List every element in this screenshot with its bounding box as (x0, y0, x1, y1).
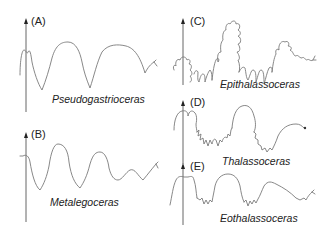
panel-label-a: (A) (31, 15, 46, 27)
panel-e: (E) Eothalassoceras (170, 160, 315, 225)
panel-label-d: (D) (190, 96, 205, 108)
suture-line-c (173, 21, 316, 84)
arrow-up-icon (181, 18, 185, 24)
panel-label-b: (B) (31, 128, 46, 140)
arrow-up-icon (181, 100, 185, 106)
suture-line-a (20, 42, 157, 90)
suture-line-b (20, 144, 158, 190)
arrow-up-icon (181, 163, 185, 169)
taxon-label-e: Eothalassoceras (220, 212, 298, 224)
suture-line-d (174, 105, 304, 152)
taxon-label-d: Thalassoceras (222, 155, 291, 167)
suture-line-e (170, 174, 315, 206)
panel-label-c: (C) (190, 15, 205, 27)
suture-end-dot (304, 127, 306, 129)
arrow-up-icon (24, 18, 28, 24)
taxon-label-c: Epithalassoceras (220, 78, 301, 90)
panel-b: (B) Metalegoceras (20, 128, 158, 222)
suture-figure: (A) Pseudogastrioceras (B) Metalegoceras… (0, 0, 332, 229)
taxon-label-a: Pseudogastrioceras (52, 93, 146, 105)
panel-c: (C) Epithalassoceras (173, 15, 316, 90)
panel-d: (D) Thalassoceras (174, 96, 306, 167)
arrow-up-icon (24, 132, 28, 138)
panel-label-e: (E) (190, 160, 205, 172)
taxon-label-b: Metalegoceras (50, 196, 120, 208)
panel-a: (A) Pseudogastrioceras (20, 15, 157, 112)
